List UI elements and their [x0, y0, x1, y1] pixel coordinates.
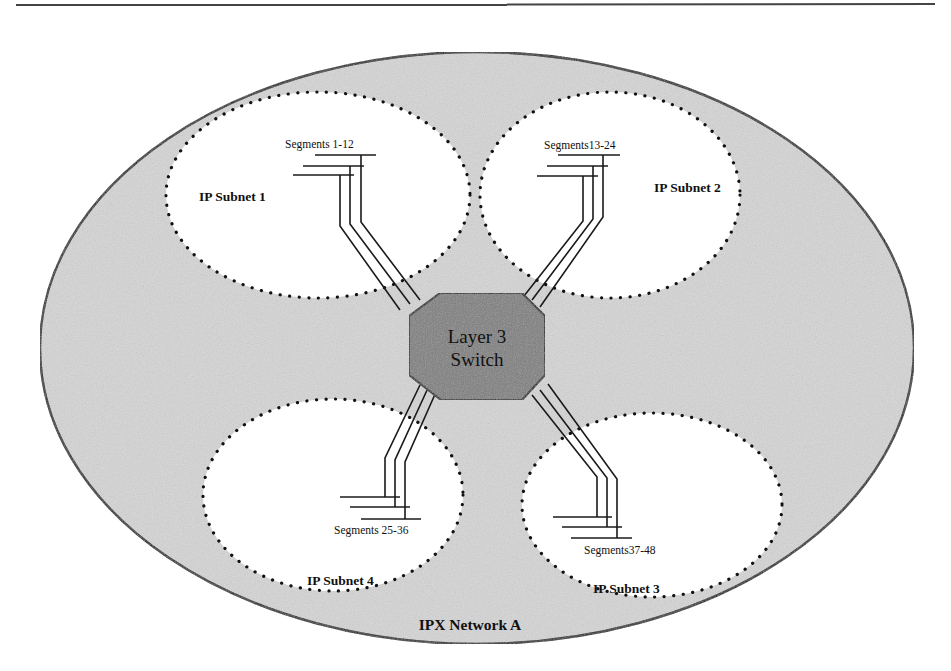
switch-label-line2: Switch [451, 349, 504, 370]
ipx-network-label: IPX Network A [419, 616, 522, 633]
ip-subnet-3-ellipse [522, 413, 782, 597]
ip-subnet-3-label: IP Subnet 3 [593, 581, 660, 596]
network-diagram: Layer 3 Switch Segments 1-12 Segments13-… [0, 0, 951, 671]
ip-subnet-4-label: IP Subnet 4 [307, 573, 374, 588]
ip-subnet-4-ellipse [203, 399, 463, 591]
ip-subnet-2-ellipse [480, 92, 740, 298]
ip-subnet-2-label: IP Subnet 2 [654, 180, 721, 195]
segments-37-48-label: Segments37-48 [584, 544, 656, 557]
segments-25-36-label: Segments 25-36 [334, 524, 409, 537]
ip-subnet-1-label: IP Subnet 1 [199, 189, 266, 204]
top-rule-right [507, 4, 935, 5]
segments-13-24-label: Segments13-24 [544, 139, 616, 152]
segments-1-12-label: Segments 1-12 [285, 138, 354, 151]
switch-label-line1: Layer 3 [448, 326, 507, 347]
